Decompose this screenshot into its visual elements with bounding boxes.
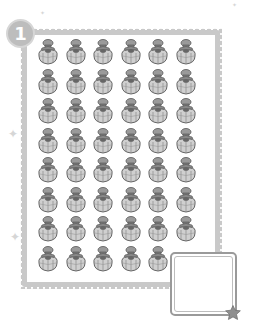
perfume-bottle-icon <box>90 127 116 155</box>
perfume-bottle-icon <box>118 156 144 184</box>
perfume-bottle-icon <box>90 68 116 96</box>
sparkle-decoration: ✦ <box>8 128 18 140</box>
perfume-bottle-icon <box>173 38 199 66</box>
perfume-bottle-icon <box>35 215 61 243</box>
perfume-bottle-icon <box>173 97 199 125</box>
perfume-bottle-icon <box>63 156 89 184</box>
perfume-bottle-icon <box>63 215 89 243</box>
perfume-bottle-icon <box>173 156 199 184</box>
perfume-bottle-icon <box>145 38 171 66</box>
perfume-bottle-icon <box>173 186 199 214</box>
perfume-bottle-icon <box>90 186 116 214</box>
perfume-bottle-icon <box>173 127 199 155</box>
perfume-bottle-icon <box>118 245 144 273</box>
perfume-bottle-icon <box>63 127 89 155</box>
perfume-bottle-icon <box>90 156 116 184</box>
perfume-bottle-icon <box>145 245 171 273</box>
perfume-bottle-icon <box>35 186 61 214</box>
perfume-bottle-icon <box>90 245 116 273</box>
perfume-bottle-icon <box>63 97 89 125</box>
perfume-bottle-icon <box>118 68 144 96</box>
perfume-bottle-icon <box>118 97 144 125</box>
perfume-bottle-icon <box>63 68 89 96</box>
perfume-bottle-grid <box>35 38 205 274</box>
perfume-bottle-icon <box>63 38 89 66</box>
perfume-bottle-icon <box>35 97 61 125</box>
exercise-number-badge: 1 <box>6 19 35 48</box>
perfume-bottle-icon <box>145 127 171 155</box>
perfume-bottle-icon <box>35 156 61 184</box>
perfume-bottle-icon <box>145 186 171 214</box>
perfume-bottle-icon <box>118 38 144 66</box>
sparkle-decoration: ✦ <box>40 10 45 16</box>
perfume-bottle-icon <box>145 156 171 184</box>
perfume-bottle-icon <box>35 68 61 96</box>
perfume-bottle-icon <box>90 215 116 243</box>
sparkle-decoration: ✦ <box>10 231 20 243</box>
perfume-bottle-icon <box>173 215 199 243</box>
perfume-bottle-icon <box>145 68 171 96</box>
perfume-bottle-icon <box>145 215 171 243</box>
perfume-bottle-icon <box>90 97 116 125</box>
perfume-bottle-icon <box>35 38 61 66</box>
sparkle-decoration: ✦ <box>232 2 237 8</box>
perfume-bottle-icon <box>173 68 199 96</box>
perfume-bottle-icon <box>145 97 171 125</box>
perfume-bottle-icon <box>63 186 89 214</box>
perfume-bottle-icon <box>118 127 144 155</box>
perfume-bottle-icon <box>90 38 116 66</box>
perfume-bottle-icon <box>118 186 144 214</box>
perfume-bottle-icon <box>118 215 144 243</box>
perfume-bottle-icon <box>63 245 89 273</box>
perfume-bottle-icon <box>35 245 61 273</box>
star-icon <box>224 304 242 322</box>
perfume-bottle-icon <box>35 127 61 155</box>
